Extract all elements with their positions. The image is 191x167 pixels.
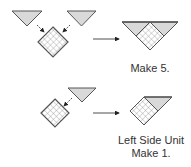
arrow-in-left — [37, 25, 44, 32]
arrow-in — [64, 98, 72, 106]
step-1-result — [122, 22, 178, 50]
caption-make-5: Make 5. — [122, 62, 178, 74]
caption-make-1: Make 1. — [114, 147, 188, 159]
arrow-in-right — [63, 25, 70, 32]
checkered-square-2 — [41, 99, 69, 127]
step-2-result — [130, 97, 172, 125]
step-1-inputs — [12, 11, 96, 57]
triangle-single — [68, 88, 96, 102]
triangle-right — [67, 11, 96, 26]
step-2-inputs — [41, 88, 96, 127]
checkered-square — [38, 27, 68, 57]
caption-left-side-unit: Left Side Unit — [114, 134, 188, 146]
triangle-left — [12, 11, 42, 26]
